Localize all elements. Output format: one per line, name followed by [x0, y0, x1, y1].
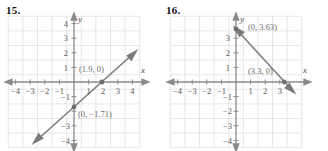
point-annotation: (0, −1.71)	[78, 109, 112, 119]
x-axis-label: x	[302, 65, 307, 75]
y-tick-label: −1	[61, 92, 70, 102]
y-tick-label: 1	[64, 63, 68, 73]
x-tick-label: −4	[173, 86, 183, 96]
point-annotation: (1.9, 0)	[79, 64, 104, 74]
x-tick-label: 3	[278, 86, 282, 96]
y-tick-label: 2	[64, 48, 68, 58]
x-tick-label: −4	[11, 86, 21, 96]
x-tick-label: 4	[130, 86, 135, 96]
y-tick-label: −3	[223, 121, 232, 131]
x-tick-label: 2	[263, 86, 267, 96]
point-annotation: (0, 3.63)	[248, 22, 277, 32]
y-tick-label: −4	[61, 136, 71, 146]
point-annotation: (3.3, 0)	[248, 66, 273, 76]
y-axis-label: y	[77, 14, 82, 24]
point-y-intercept-15	[72, 105, 77, 110]
x-tick-label: −3	[188, 86, 197, 96]
y-tick-label: −1	[223, 92, 232, 102]
point-x-intercept-16	[282, 80, 287, 85]
x-axis-label: x	[140, 65, 145, 75]
x-tick-label: 2	[101, 86, 105, 96]
y-tick-label: 2	[226, 48, 230, 58]
problem-16: 16.	[164, 0, 328, 151]
y-tick-label: 3	[226, 33, 230, 43]
x-tick-label: −3	[26, 86, 35, 96]
point-y-intercept-16	[234, 27, 239, 32]
exercise-page: 15.	[0, 0, 328, 151]
graph-figure-15: −4 −3 −2 −1 1 2 3 4 4 3 2 1 −1 −3 −4 x y	[0, 0, 164, 151]
x-tick-label: −2	[40, 86, 49, 96]
graph-figure-16: −4 −3 −2 −1 1 2 3 3 2 1 −1 −2 −3 −4 x y …	[164, 0, 328, 151]
y-tick-label: −3	[61, 121, 70, 131]
y-tick-label: 1	[226, 63, 230, 73]
y-tick-label: 3	[64, 33, 68, 43]
x-axis-15	[5, 79, 149, 85]
y-tick-label: −4	[223, 136, 233, 146]
y-tick-label: 4	[64, 19, 69, 29]
problem-15: 15.	[0, 0, 164, 151]
x-tick-label: 1	[86, 86, 90, 96]
point-x-intercept-15	[99, 80, 104, 85]
y-tick-label: −2	[223, 106, 232, 116]
x-tick-label: 1	[248, 86, 252, 96]
x-tick-label: −2	[202, 86, 211, 96]
x-tick-label: 3	[116, 86, 120, 96]
y-axis-label: y	[239, 14, 244, 24]
